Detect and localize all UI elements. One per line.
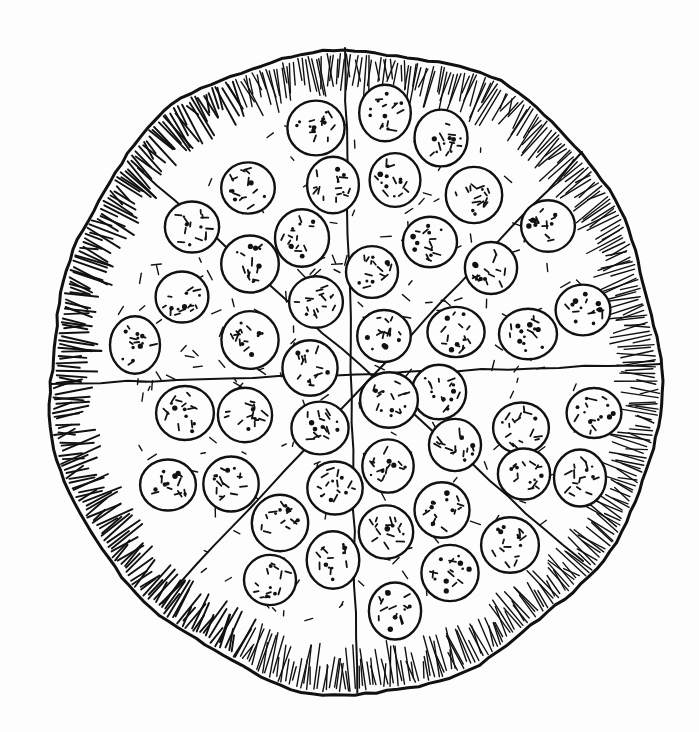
pepperoni [429,419,481,471]
pepperoni [357,310,411,362]
pepperoni [415,110,468,167]
pepperoni [287,101,344,156]
pepperoni [554,450,606,507]
pepperoni [289,276,343,328]
pepperoni [252,495,308,552]
pepperoni [498,449,550,500]
pepperoni [362,439,413,492]
pepperoni [156,386,214,440]
pepperoni [110,316,160,373]
pepperoni [307,157,359,214]
pepperoni [403,217,457,267]
pepperoni [370,153,421,207]
pepperoni [465,242,517,294]
pepperoni [415,482,470,537]
pepperoni [421,545,478,601]
pepperoni [244,555,296,605]
pepperoni [359,505,413,558]
pepperoni [567,388,622,438]
pepperoni [203,457,258,512]
pepperoni [346,246,398,298]
pepperoni [521,200,575,252]
pepperoni [556,285,611,336]
pepperoni [499,309,557,360]
pepperoni [221,311,278,369]
pepperoni [359,85,411,142]
pepperoni [412,365,466,420]
pepperoni [307,531,360,588]
pepperoni [307,462,362,515]
pepperoni [360,372,418,428]
pizza-illustration: pepperoni pizza [0,0,699,732]
pepperoni [221,162,275,213]
pepperoni [275,209,329,267]
pepperoni [140,460,196,511]
pepperoni [446,167,502,223]
pepperoni [291,402,348,455]
pepperoni [165,202,219,253]
slice-line [345,48,357,693]
pepperoni-slices [110,85,621,640]
pepperoni [221,236,279,293]
pepperoni [156,272,209,323]
pepperoni [427,307,484,357]
pepperoni [481,517,539,573]
pepperoni [282,340,337,396]
pepperoni [493,403,549,454]
pepperoni [218,388,272,442]
pizza-drawing [0,0,699,732]
pepperoni [369,583,421,640]
